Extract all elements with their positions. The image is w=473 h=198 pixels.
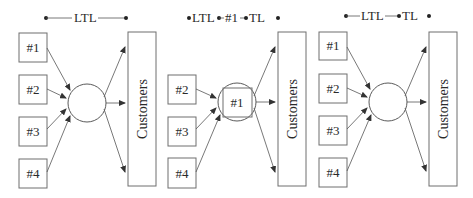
supplier-node-4: #4 xyxy=(168,158,196,188)
supplier-node-1: #1 xyxy=(319,32,347,60)
legend-ltl-label: LTL xyxy=(361,8,384,23)
customers-label: Customers xyxy=(285,79,300,139)
arrow-supplier1-to-hub xyxy=(47,48,70,90)
supplier-node-3: #3 xyxy=(19,117,47,146)
arrow-supplier2-to-hub xyxy=(196,89,216,98)
arrow-hub-to-customers xyxy=(104,109,125,172)
panel-3-legend: LTL TL xyxy=(344,8,431,23)
supplier-node-3: #3 xyxy=(319,116,347,145)
supplier-node-4: #4 xyxy=(319,158,347,187)
legend-tl-label: TL xyxy=(402,8,418,23)
supplier-label: #1 xyxy=(27,40,40,55)
hub-label: #1 xyxy=(231,95,244,110)
supplier-node-1: #1 xyxy=(19,33,47,62)
shipping-network-diagram: LTL #1 #2 #3 #4 Customers xyxy=(0,0,473,198)
customers-node: Customers xyxy=(278,32,306,186)
customers-node: Customers xyxy=(128,32,156,186)
supplier-node-4: #4 xyxy=(19,159,47,188)
consolidation-hub xyxy=(68,84,106,122)
arrow-supplier4-to-hub xyxy=(196,115,220,172)
arrow-hub-to-customers xyxy=(254,108,275,172)
arrow-supplier3-to-hub xyxy=(347,108,367,129)
customers-label: Customers xyxy=(436,79,451,139)
legend-dot-icon xyxy=(397,14,401,18)
panel-1-legend: LTL xyxy=(44,10,128,25)
supplier-label: #1 xyxy=(327,38,340,53)
legend-dot-icon xyxy=(427,14,431,18)
arrow-hub-to-customers xyxy=(254,47,275,96)
supplier-label: #3 xyxy=(327,123,340,138)
customers-label: Customers xyxy=(135,79,150,139)
supplier-label: #4 xyxy=(176,166,190,181)
arrow-hub-to-customers xyxy=(405,108,426,171)
supplier-label: #2 xyxy=(27,82,40,97)
legend-ltl-label: LTL xyxy=(74,10,97,25)
panel-3: LTL TL #1 #2 #3 #4 xyxy=(319,8,457,187)
legend-dot-icon xyxy=(187,16,191,20)
supplier-node-2: #2 xyxy=(319,74,347,103)
arrow-supplier1-to-hub xyxy=(347,47,370,89)
arrow-supplier2-to-hub xyxy=(47,89,66,98)
supplier-label: #4 xyxy=(27,166,41,181)
panel-2-legend: LTL #1 TL xyxy=(187,10,280,25)
arrow-supplier4-to-hub xyxy=(347,115,371,171)
legend-hub-label: #1 xyxy=(225,10,238,25)
supplier-label: #2 xyxy=(176,82,189,97)
arrow-supplier3-to-hub xyxy=(47,109,66,129)
legend-dot-icon xyxy=(276,16,280,20)
arrow-supplier3-to-hub xyxy=(196,108,216,129)
supplier-node-2: #2 xyxy=(168,75,196,104)
arrow-hub-to-customers xyxy=(405,47,426,96)
panel-1: LTL #1 #2 #3 #4 Customers xyxy=(19,10,156,188)
legend-tl-label: TL xyxy=(249,10,265,25)
supplier-label: #4 xyxy=(327,165,341,180)
supplier-label: #3 xyxy=(27,124,40,139)
arrow-supplier2-to-hub xyxy=(347,88,367,97)
panel-2: LTL #1 TL #2 #3 #4 #1 xyxy=(168,10,306,188)
legend-ltl-label: LTL xyxy=(192,10,215,25)
arrow-supplier4-to-hub xyxy=(47,116,70,172)
supplier-label: #2 xyxy=(327,81,340,96)
arrow-hub-to-customers xyxy=(104,47,125,97)
supplier-node-2: #2 xyxy=(19,75,47,104)
supplier-node-3: #3 xyxy=(168,117,196,146)
supplier-label: #3 xyxy=(176,124,189,139)
consolidation-hub xyxy=(369,83,407,121)
legend-dot-icon xyxy=(244,16,248,20)
legend-dot-icon xyxy=(124,16,128,20)
customers-node: Customers xyxy=(429,32,457,186)
